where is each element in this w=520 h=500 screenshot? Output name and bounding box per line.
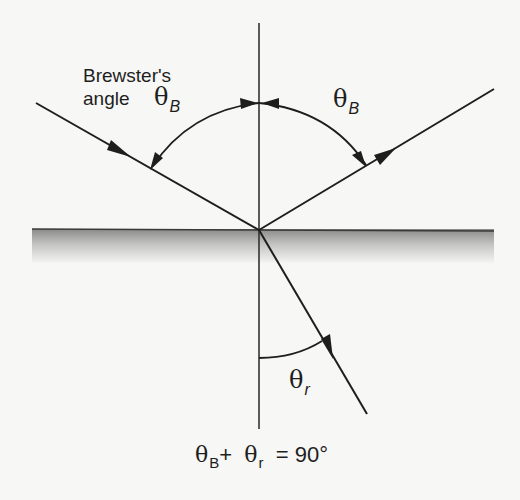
theta-r-label: θr [289, 367, 310, 396]
theta-symbol: θ [289, 366, 303, 394]
brewster-diagram [0, 0, 520, 500]
formula-theta-r: θr [244, 442, 263, 467]
theta-r-arc [259, 341, 322, 358]
formula-theta-b-subscript: B [209, 454, 219, 471]
arc-arrow-right-icon [352, 151, 366, 167]
theta-b-right-label: θB [333, 86, 359, 115]
theta-r-subscript: r [304, 381, 309, 398]
incident-arrow-icon [107, 140, 131, 157]
formula-theta-r-subscript: r [259, 454, 264, 471]
theta-b-subscript: B [169, 98, 180, 115]
brewster-formula: θB+ θr = 90° [195, 442, 328, 470]
arc-arrow-top-left-icon [240, 98, 258, 109]
theta-symbol: θ [244, 442, 257, 467]
theta-symbol: θ [195, 442, 208, 467]
theta-b-left-label: θB [154, 84, 180, 113]
reflected-arrow-icon [374, 148, 396, 165]
theta-symbol: θ [333, 85, 347, 113]
lower-medium-surface [32, 229, 494, 263]
arc-arrow-top-right-icon [262, 98, 279, 109]
theta-symbol: θ [154, 83, 168, 111]
formula-equals-90: = 90° [276, 442, 328, 467]
theta-b-subscript: B [348, 100, 359, 117]
formula-plus: + [219, 442, 232, 467]
incident-ray [36, 103, 259, 230]
formula-theta-b: θB [195, 442, 219, 467]
